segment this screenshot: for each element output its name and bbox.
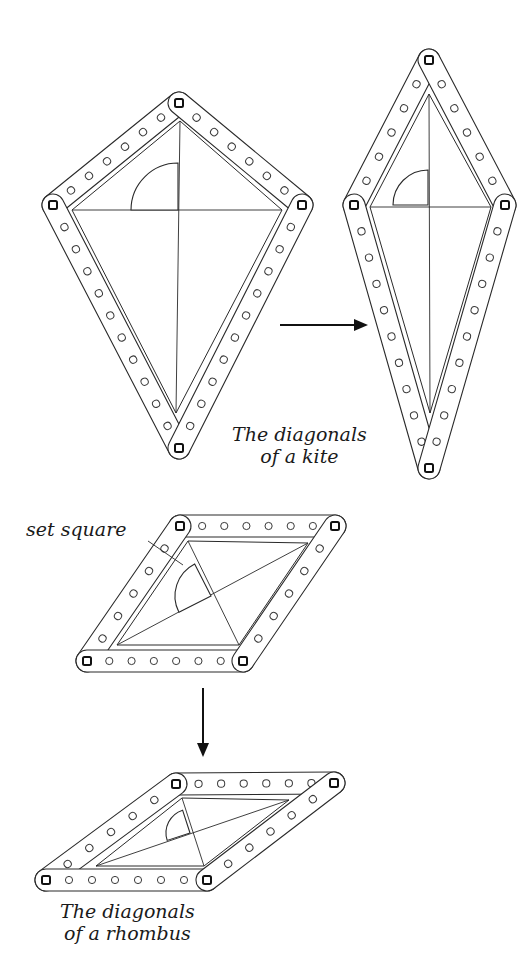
kite-caption: The diagonals of a kite — [232, 423, 367, 467]
hole-icon — [265, 522, 272, 529]
bolt-icon — [425, 56, 433, 64]
bolt-icon — [298, 201, 306, 209]
hole-icon — [111, 876, 118, 883]
meccano-strip — [415, 191, 518, 481]
hole-icon — [150, 657, 157, 664]
bolt-icon — [425, 464, 433, 472]
rhombus-caption-line-2: of a rhombus — [60, 922, 195, 944]
bolt-icon — [175, 99, 183, 107]
hole-icon — [195, 780, 202, 787]
hole-icon — [199, 522, 206, 529]
hole-icon — [195, 657, 202, 664]
kite-caption-line-2: of a kite — [232, 445, 367, 467]
kite-caption-line-1: The diagonals — [232, 423, 367, 445]
hole-icon — [65, 876, 72, 883]
bolt-icon — [239, 657, 247, 665]
bolt-icon — [176, 522, 184, 530]
hole-icon — [287, 522, 294, 529]
bolt-icon — [350, 201, 358, 209]
rhombus-caption-line-1: The diagonals — [60, 900, 195, 922]
diagonal-line — [429, 94, 430, 413]
bolt-icon — [175, 444, 183, 452]
hole-icon — [134, 876, 141, 883]
rhombus-caption: The diagonals of a rhombus — [60, 900, 195, 944]
hole-icon — [173, 657, 180, 664]
strip-body — [38, 190, 194, 463]
set-square-label: set square — [26, 518, 126, 540]
strip-body — [76, 650, 254, 672]
hole-icon — [221, 522, 228, 529]
hole-icon — [157, 876, 164, 883]
meccano-diagonals-figure — [0, 0, 529, 960]
hole-icon — [88, 876, 95, 883]
diagram-layer — [31, 45, 520, 895]
hole-icon — [180, 876, 187, 883]
rhombus-2-diagram — [31, 768, 350, 896]
bolt-icon — [203, 876, 211, 884]
hole-icon — [309, 522, 316, 529]
meccano-strip — [76, 650, 254, 672]
bolt-icon — [42, 876, 50, 884]
set-square-icon — [393, 170, 428, 205]
hole-icon — [285, 780, 292, 787]
hole-icon — [106, 657, 113, 664]
meccano-strip — [38, 190, 194, 463]
hole-icon — [263, 780, 270, 787]
meccano-strip — [164, 190, 317, 463]
kite-1-diagram — [38, 88, 318, 463]
hole-icon — [218, 780, 225, 787]
bolt-icon — [83, 657, 91, 665]
bolt-icon — [172, 780, 180, 788]
strip-body — [164, 190, 317, 463]
set-square-icon — [131, 163, 178, 210]
arrow-icon — [280, 319, 368, 331]
hole-icon — [217, 657, 224, 664]
kite-2-diagram — [339, 45, 520, 481]
set-square-icon — [163, 564, 211, 612]
arrow-icon — [197, 688, 209, 757]
hole-icon — [128, 657, 135, 664]
hole-icon — [243, 522, 250, 529]
strip-body — [35, 869, 218, 891]
bolt-icon — [49, 201, 57, 209]
bolt-icon — [330, 779, 338, 787]
bolt-icon — [331, 522, 339, 530]
bolt-icon — [501, 201, 509, 209]
meccano-strip — [35, 869, 218, 891]
hole-icon — [240, 780, 247, 787]
